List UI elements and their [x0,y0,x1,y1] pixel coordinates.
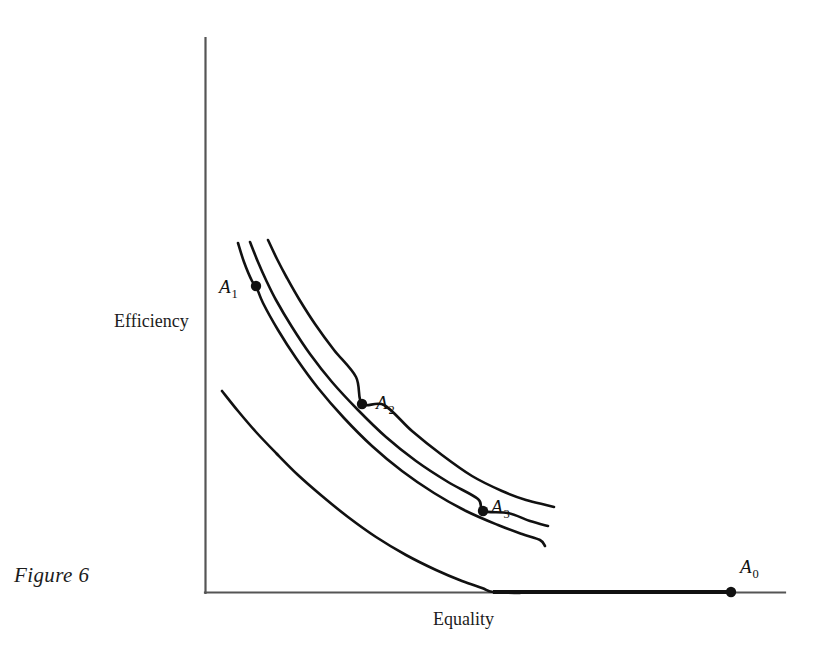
y-axis-label: Efficiency [114,311,189,332]
x-axis-label: Equality [433,609,494,630]
point-label-a2-letter: A [376,392,388,413]
point-label-a1-subscript: 1 [231,287,238,301]
figure-caption: Figure 6 [14,563,89,588]
indifference-curve-2 [250,242,548,526]
data-point-a0 [726,587,736,597]
point-label-a0-subscript: 0 [752,567,759,581]
point-label-a1: A1 [219,276,238,302]
point-label-a3-subscript: 3 [503,507,510,521]
point-label-a0: A0 [740,556,759,582]
indifference-curve-3 [268,240,554,507]
point-label-a2-subscript: 2 [388,403,395,417]
point-label-a1-letter: A [219,276,231,297]
data-point-a2 [357,399,367,409]
data-point-a1 [251,281,261,291]
point-label-a3-letter: A [491,496,503,517]
point-label-a0-letter: A [740,556,752,577]
point-label-a2: A2 [376,392,395,418]
point-label-a3: A3 [491,496,510,522]
figure-6-container: Efficiency Equality A1 A2 A3 A0 Figure 6 [0,0,823,659]
data-point-a3 [478,506,488,516]
data-point-markers [251,281,736,597]
